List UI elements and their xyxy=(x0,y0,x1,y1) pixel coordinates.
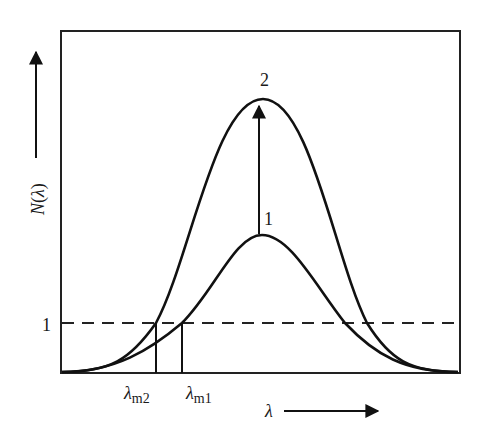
y-axis-label-n: N xyxy=(28,202,48,216)
lambda-m2-label: λm2 xyxy=(123,383,150,406)
y-axis-label: N(λ) xyxy=(28,183,49,216)
curve-1-label: 1 xyxy=(264,209,273,229)
lambda-m1-symbol: λ xyxy=(185,383,194,403)
diagram-canvas: 2 1 1 N(λ) λm2 λm1 λ xyxy=(0,0,491,444)
threshold-label: 1 xyxy=(42,315,51,335)
y-axis-label-lambda: λ xyxy=(28,189,48,198)
curve-2-label: 2 xyxy=(260,70,269,90)
curve-1 xyxy=(62,235,458,372)
lambda-m1-subscript: m1 xyxy=(194,391,212,406)
y-axis-label-close: ) xyxy=(28,183,49,189)
lambda-m2-subscript: m2 xyxy=(132,391,150,406)
lambda-m1-label: λm1 xyxy=(185,383,212,406)
lambda-m2-symbol: λ xyxy=(123,383,132,403)
x-axis-label: λ xyxy=(264,401,273,421)
